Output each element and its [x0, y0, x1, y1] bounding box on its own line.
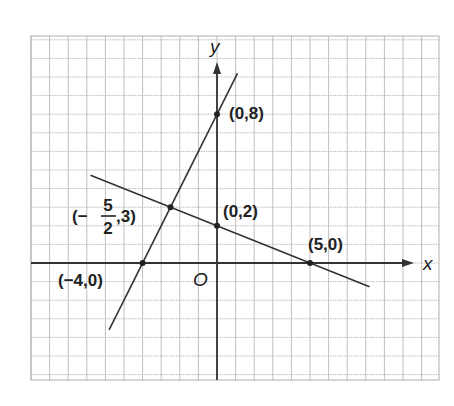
point-0-8 [214, 111, 220, 117]
y-axis-label: y [208, 36, 221, 57]
y-axis-arrow-icon [213, 62, 221, 74]
label-intersection-suffix: ,3) [116, 207, 136, 226]
x-axis-label: x [422, 253, 434, 274]
label-neg4-0: (−4,0) [58, 271, 103, 290]
x-axis-arrow-icon [402, 259, 414, 267]
label-intersection: (− 5 2 ,3) [72, 196, 136, 238]
point-0-2 [214, 223, 220, 229]
point-intersection [168, 204, 174, 210]
origin-label: O [193, 269, 208, 290]
point-neg4-0 [140, 260, 146, 266]
label-intersection-prefix: (− [72, 207, 88, 226]
label-intersection-denominator: 2 [103, 219, 112, 238]
coordinate-graph: x y O (0,8) (0,2) (5,0) (−4,0) (− 5 2 ,3… [0, 0, 454, 406]
label-0-2: (0,2) [223, 202, 258, 221]
label-5-0: (5,0) [308, 235, 343, 254]
label-0-8: (0,8) [229, 104, 264, 123]
label-intersection-numerator: 5 [103, 196, 112, 215]
line-y-eq-neg-2-5x-plus-2 [91, 175, 370, 287]
point-5-0 [307, 260, 313, 266]
